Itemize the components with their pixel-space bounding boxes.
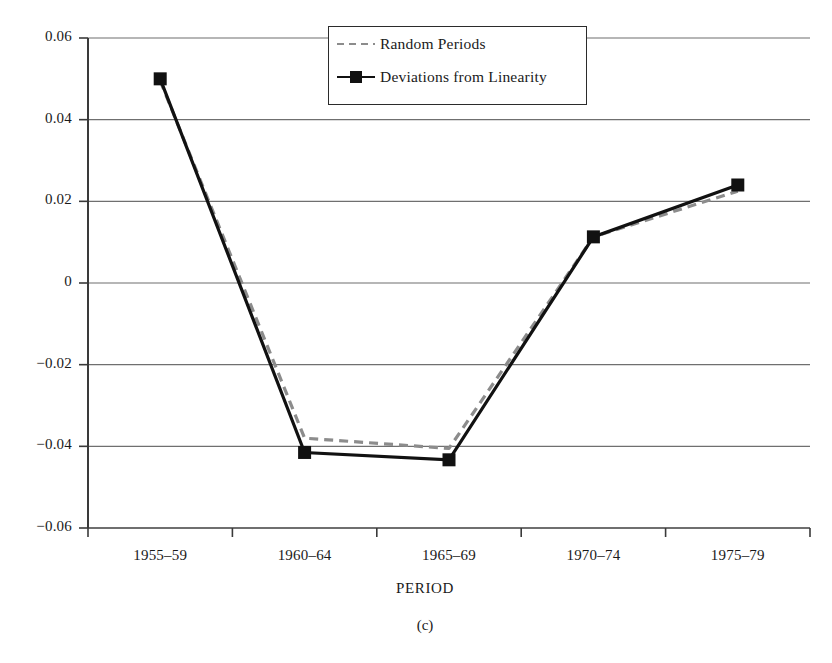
y-tick-label: 0 [0,273,72,290]
dashed-line-icon [337,37,375,51]
legend-label-deviations-from-linearity: Deviations from Linearity [380,68,547,86]
panel-caption: (c) [325,617,525,634]
x-tick-label: 1970–74 [523,547,663,564]
series-deviations-markers [154,72,745,466]
y-tick-label: 0.04 [0,110,72,127]
legend-label-random-periods: Random Periods [380,35,486,53]
figure-panel-c: 0.060.040.020−0.02−0.04−0.06 1955–591960… [0,0,832,663]
legend-item-random-periods: Random Periods [329,27,586,60]
series-random-periods-line [160,81,738,449]
data-point-marker [443,453,456,466]
data-point-marker [154,72,167,85]
data-point-marker [587,230,600,243]
y-tick-label: 0.06 [0,28,72,45]
chart-legend: Random Periods Deviations from Linearity [328,26,587,105]
x-axis-ticks [88,528,810,537]
y-tick-label: −0.02 [0,355,72,372]
data-point-marker [731,179,744,192]
x-tick-label: 1960–64 [235,547,375,564]
x-axis-title: PERIOD [325,580,525,597]
y-axis-ticks [79,38,88,528]
y-tick-label: −0.04 [0,436,72,453]
solid-line-square-marker-icon [337,70,375,84]
data-point-marker [298,446,311,459]
series-deviations-from-linearity-line [160,79,738,460]
x-tick-label: 1955–59 [90,547,230,564]
x-tick-label: 1975–79 [668,547,808,564]
legend-item-deviations-from-linearity: Deviations from Linearity [329,60,586,93]
y-tick-label: 0.02 [0,191,72,208]
y-tick-label: −0.06 [0,518,72,535]
x-tick-label: 1965–69 [379,547,519,564]
